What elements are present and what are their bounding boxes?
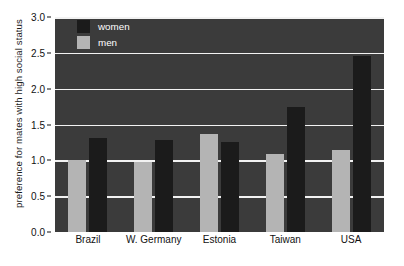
y-tick-label: 3.0 — [18, 12, 45, 23]
bar-men-taiwan — [266, 154, 284, 232]
bar-men-usa — [332, 150, 350, 232]
legend-swatch-men-icon — [77, 36, 90, 49]
bar-women-estonia — [221, 142, 239, 232]
bar-women-usa — [353, 56, 371, 232]
bar-women-brazil — [89, 138, 107, 232]
y-tick-label: 1.5 — [18, 119, 45, 130]
y-tick-mark — [47, 124, 51, 125]
y-tick-mark — [47, 17, 51, 18]
bar-women-taiwan — [287, 107, 305, 232]
legend-label-women: women — [98, 21, 130, 32]
x-tick-label-usa: USA — [341, 234, 362, 245]
bar-men-brazil — [68, 160, 86, 232]
bar-men-w-germany — [134, 162, 152, 232]
y-tick-label: 2.0 — [18, 83, 45, 94]
x-tick-label-taiwan: Taiwan — [270, 234, 301, 245]
x-tick-label-brazil: Brazil — [75, 234, 100, 245]
y-tick-label: 1.0 — [18, 155, 45, 166]
y-tick-label: 2.5 — [18, 47, 45, 58]
plot-area: women men — [55, 17, 384, 232]
gridline — [55, 53, 384, 55]
bar-men-estonia — [200, 134, 218, 232]
legend: women men — [77, 19, 207, 51]
y-tick-mark — [47, 160, 51, 161]
y-tick-label: 0.5 — [18, 191, 45, 202]
x-tick-label-w-germany: W. Germany — [126, 234, 182, 245]
bar-women-w-germany — [155, 140, 173, 232]
figure-bar-chart: preference for mates with high social st… — [0, 0, 404, 266]
legend-label-men: men — [98, 37, 117, 48]
y-tick-label: 0.0 — [18, 227, 45, 238]
y-tick-mark — [47, 52, 51, 53]
y-tick-mark — [47, 196, 51, 197]
figure-caption — [12, 256, 404, 266]
y-tick-mark — [47, 232, 51, 233]
y-axis-tick-labels: 0.00.51.01.52.02.53.0 — [24, 0, 51, 266]
gridline — [55, 125, 384, 127]
gridline — [55, 89, 384, 91]
legend-item-men: men — [77, 35, 207, 50]
x-axis-tick-labels: BrazilW. GermanyEstoniaTaiwanUSA — [55, 234, 384, 250]
legend-item-women: women — [77, 19, 207, 34]
x-tick-label-estonia: Estonia — [203, 234, 236, 245]
y-tick-mark — [47, 88, 51, 89]
legend-swatch-women-icon — [77, 20, 90, 33]
